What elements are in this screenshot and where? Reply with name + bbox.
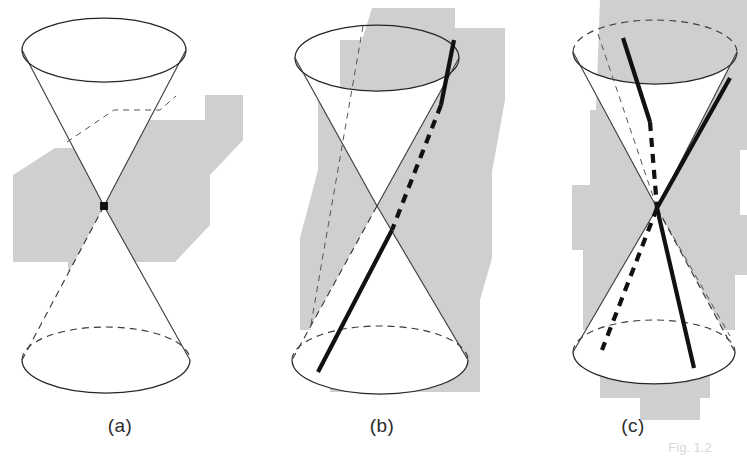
panel-a-vertex-point-marker — [100, 202, 108, 210]
panel-c-label: (c) — [621, 415, 644, 436]
figure-caption: Fig. 1.2 — [668, 440, 711, 455]
figure-canvas: (a) (b) — [0, 0, 747, 460]
panel-a-label: (a) — [108, 415, 132, 436]
conic-sections-figure: (a) (b) — [0, 0, 747, 460]
panel-c: (c) — [572, 0, 747, 436]
panel-b-label: (b) — [370, 415, 394, 436]
